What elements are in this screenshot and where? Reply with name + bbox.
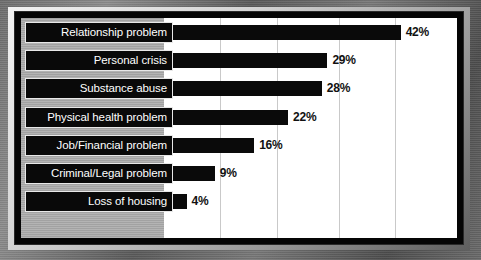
bar-row: 28%Substance abuse	[21, 78, 457, 99]
bar-value-label: 29%	[332, 52, 355, 68]
bar-5	[164, 138, 254, 153]
bar-2	[164, 53, 327, 68]
bar-chart: 42%Relationship problem29%Personal crisi…	[21, 18, 457, 238]
category-label-box: Relationship problem	[25, 22, 173, 43]
category-label-box: Personal crisis	[25, 50, 173, 71]
bar-4	[164, 110, 288, 125]
category-label-text: Relationship problem	[61, 26, 167, 39]
category-label-box: Criminal/Legal problem	[25, 163, 173, 184]
bar-value-label: 28%	[327, 80, 350, 96]
bar-row: 42%Relationship problem	[21, 22, 457, 43]
bar-1	[164, 25, 401, 40]
bar-row: 16%Job/Financial problem	[21, 135, 457, 156]
category-label-text: Job/Financial problem	[57, 139, 167, 152]
chart-figure: 42%Relationship problem29%Personal crisi…	[0, 0, 481, 260]
bar-value-label: 4%	[192, 193, 209, 209]
category-label-box: Substance abuse	[25, 78, 173, 99]
bar-value-label: 16%	[259, 137, 282, 153]
category-label-text: Substance abuse	[80, 82, 167, 95]
bar-value-label: 22%	[293, 109, 316, 125]
category-label-text: Loss of housing	[88, 195, 167, 208]
category-label-box: Loss of housing	[25, 191, 173, 212]
bar-row: 29%Personal crisis	[21, 50, 457, 71]
bar-row: 4%Loss of housing	[21, 191, 457, 212]
bar-row: 9%Criminal/Legal problem	[21, 163, 457, 184]
bar-value-label: 42%	[406, 24, 429, 40]
category-label-text: Physical health problem	[47, 111, 167, 124]
bar-rows: 42%Relationship problem29%Personal crisi…	[21, 18, 457, 238]
category-label-text: Criminal/Legal problem	[51, 167, 167, 180]
category-label-box: Job/Financial problem	[25, 135, 173, 156]
category-label-box: Physical health problem	[25, 107, 173, 128]
bar-3	[164, 81, 322, 96]
bar-row: 22%Physical health problem	[21, 107, 457, 128]
bar-value-label: 9%	[220, 165, 237, 181]
category-label-text: Personal crisis	[94, 54, 167, 67]
